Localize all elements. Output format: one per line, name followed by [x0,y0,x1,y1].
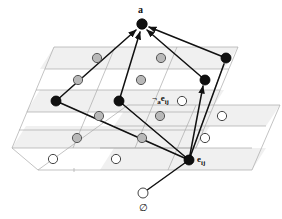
node-gray-2 [156,53,165,62]
node-gray-6 [155,111,164,120]
node-white-1 [177,96,186,105]
node-white-5 [111,154,120,163]
node-eij [184,155,194,165]
negated-edge-subscript: ij [165,98,169,106]
node-white-3 [200,133,209,142]
node-white-4 [48,154,57,163]
lattice-diagram-figure: a ¬aeij eij ∅ [0,0,282,219]
node-gray-8 [137,133,146,142]
lower-grid-col-2 [12,148,38,170]
node-gray-4 [136,75,145,84]
label-apex-a: a [138,5,143,15]
node-gray-7 [72,133,81,142]
node-black-1 [221,53,231,63]
node-gray-5 [94,111,103,120]
node-gray-1 [92,53,101,62]
lattice-shading [12,47,280,170]
node-black-3 [51,96,61,106]
shade-band-3 [12,126,210,148]
label-empty-set: ∅ [139,203,148,213]
edge-node-subscript: ij [201,159,205,167]
node-black-4 [114,96,124,106]
node-white-2 [217,111,226,120]
diagram-canvas [0,0,282,219]
node-gray-3 [73,75,82,84]
label-edge-node-eij: eij [197,155,205,167]
node-black-2 [200,75,210,85]
node-empty-set [138,188,148,198]
shade-band-5 [100,148,266,170]
node-apex-a [137,19,147,29]
label-negated-edge-node: ¬aeij [152,94,169,106]
